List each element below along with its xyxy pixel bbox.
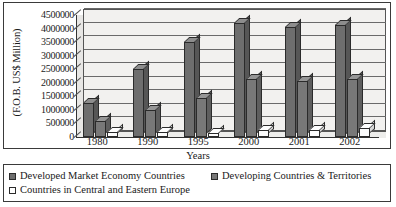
bar-front-face bbox=[196, 98, 207, 137]
bar-front-face bbox=[335, 25, 346, 138]
y-axis-tick-label: 2500000 bbox=[41, 64, 74, 74]
legend-swatch-icon bbox=[9, 187, 16, 194]
legend-item-0: Developed Market Economy Countries bbox=[9, 170, 185, 182]
bar bbox=[246, 79, 257, 137]
legend-item-1: Developing Countries & Territories bbox=[211, 170, 371, 182]
gridline bbox=[84, 8, 386, 9]
bar bbox=[83, 103, 94, 137]
bar bbox=[133, 69, 144, 137]
legend-item-2: Countries in Central and Eastern Europe bbox=[9, 184, 190, 196]
bar-front-face bbox=[95, 121, 106, 137]
bar bbox=[145, 110, 156, 137]
x-axis-tick-label: 1990 bbox=[132, 136, 164, 148]
plot-area bbox=[76, 9, 386, 137]
bar bbox=[234, 23, 245, 137]
y-axis-tick-label: 500000 bbox=[46, 118, 74, 128]
bar-front-face bbox=[297, 81, 308, 137]
bar-front-face bbox=[133, 69, 144, 137]
x-axis-tick-labels: 198019901995200020012002 bbox=[72, 136, 384, 149]
x-axis-tick-label: 2000 bbox=[233, 136, 265, 148]
y-axis-tick-labels: 4500000400000035000003000000250000020000… bbox=[18, 9, 74, 137]
chart-frame: (F.O.B. US$ Million) 4500000400000035000… bbox=[3, 2, 391, 149]
bar-side-face bbox=[308, 73, 313, 133]
bar bbox=[335, 25, 346, 138]
bar bbox=[297, 81, 308, 137]
bar-front-face bbox=[234, 23, 245, 137]
bar-front-face bbox=[246, 79, 257, 137]
bar-front-face bbox=[184, 42, 195, 137]
y-axis-tick-label: 4000000 bbox=[41, 24, 74, 34]
bar bbox=[285, 27, 296, 137]
legend-swatch-icon bbox=[9, 173, 16, 180]
bar bbox=[95, 121, 106, 137]
legend-label: Developing Countries & Territories bbox=[222, 170, 371, 182]
chart-legend: Developed Market Economy Countries Devel… bbox=[3, 164, 391, 202]
y-axis-tick-label: 4500000 bbox=[41, 10, 74, 20]
y-axis-tick-label: 3500000 bbox=[41, 37, 74, 47]
chart-page: (F.O.B. US$ Million) 4500000400000035000… bbox=[0, 0, 396, 207]
bar-front-face bbox=[145, 110, 156, 137]
bar-front-face bbox=[285, 27, 296, 137]
x-axis-title: Years bbox=[0, 150, 396, 161]
x-axis-tick-label: 1995 bbox=[182, 136, 214, 148]
y-axis-tick-label: 3000000 bbox=[41, 51, 74, 61]
bar-front-face bbox=[83, 103, 94, 137]
legend-swatch-icon bbox=[211, 173, 218, 180]
legend-label: Countries in Central and Eastern Europe bbox=[20, 184, 190, 196]
legend-label: Developed Market Economy Countries bbox=[20, 170, 185, 182]
y-axis-tick-label: 1500000 bbox=[41, 91, 74, 101]
x-axis-tick-label: 2001 bbox=[283, 136, 315, 148]
y-axis-tick-label: 1000000 bbox=[41, 105, 74, 115]
bar-front-face bbox=[347, 79, 358, 137]
bar bbox=[196, 98, 207, 137]
x-axis-tick-label: 2002 bbox=[334, 136, 366, 148]
bar bbox=[347, 79, 358, 137]
y-axis-tick-label: 2000000 bbox=[41, 78, 74, 88]
x-axis-tick-label: 1980 bbox=[81, 136, 113, 148]
bar bbox=[184, 42, 195, 137]
bar-side-face bbox=[257, 71, 262, 133]
